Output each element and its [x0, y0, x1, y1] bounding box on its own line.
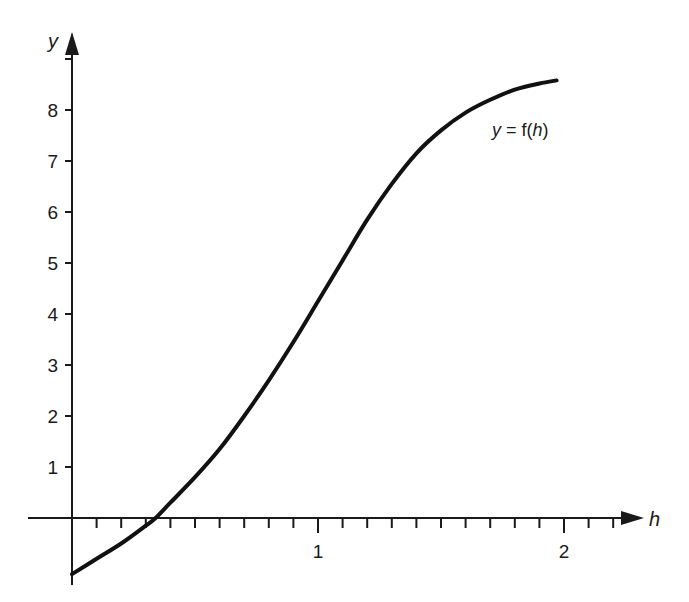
y-tick-label: 5 — [47, 253, 58, 274]
y-axis-ticks: 12345678 — [47, 59, 72, 478]
y-tick-label: 3 — [47, 355, 58, 376]
y-tick-label: 1 — [47, 457, 58, 478]
chart: 12345678 12 y h y = f(h) — [0, 0, 689, 602]
y-tick-label: 8 — [47, 100, 58, 121]
x-tick-label: 1 — [313, 541, 324, 562]
x-axis-arrow-icon — [621, 511, 644, 525]
curve-label-close: ) — [543, 120, 549, 140]
curve-f-of-h — [72, 80, 557, 574]
y-tick-label: 6 — [47, 202, 58, 223]
x-axis-label: h — [649, 508, 660, 530]
y-tick-label: 7 — [47, 151, 58, 172]
x-tick-label: 2 — [559, 541, 570, 562]
y-axis-arrow-icon — [65, 32, 79, 55]
curve-label-h: h — [533, 120, 543, 140]
y-axis-label: y — [46, 30, 59, 52]
curve-label: y = f(h) — [490, 120, 549, 140]
y-tick-label: 4 — [47, 304, 58, 325]
x-axis-ticks: 12 — [97, 518, 614, 562]
y-tick-label: 2 — [47, 406, 58, 427]
curve-label-eq: = f( — [501, 120, 533, 140]
